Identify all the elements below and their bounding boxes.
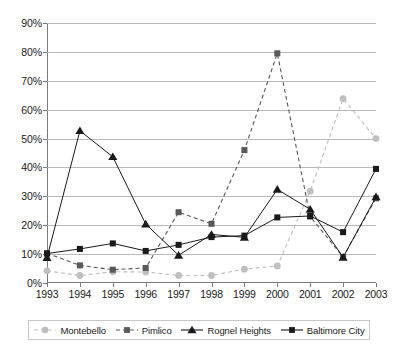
y-axis-tick-label: 30% (2, 190, 42, 202)
chart-container: 0%10%20%30%40%50%60%70%80%90% 1993199419… (0, 0, 394, 346)
legend-marker-icon (33, 325, 57, 335)
data-point (307, 213, 313, 219)
chart-legend: MontebelloPimlicoRognel HeightsBaltimore… (28, 320, 370, 340)
data-point (75, 126, 84, 134)
data-point (241, 147, 247, 153)
y-axis-tick-label: 50% (2, 133, 42, 145)
data-point (175, 272, 182, 279)
series-montebello (44, 95, 380, 279)
y-axis-tick-label: 90% (2, 17, 42, 29)
x-axis-tick (376, 283, 377, 287)
y-axis-tick-label: 80% (2, 46, 42, 58)
data-point (241, 233, 247, 239)
plot-area (47, 23, 376, 283)
data-point (273, 185, 282, 193)
legend-marker-icon (280, 325, 304, 335)
data-point (176, 209, 182, 215)
legend-item-baltimore-city[interactable]: Baltimore City (280, 325, 365, 336)
data-point (274, 263, 281, 270)
data-point (176, 242, 182, 248)
data-point (77, 262, 83, 268)
data-point (110, 240, 116, 246)
data-point (371, 193, 380, 201)
x-axis-tick (80, 283, 81, 287)
data-point (241, 266, 248, 273)
y-axis-tick-label: 60% (2, 104, 42, 116)
data-point (77, 246, 83, 252)
data-point (141, 220, 150, 228)
data-point (339, 253, 348, 261)
legend-label: Rognel Heights (206, 325, 271, 336)
legend-item-rognel-heights[interactable]: Rognel Heights (180, 325, 271, 336)
data-point (306, 205, 315, 213)
data-point (274, 214, 280, 220)
data-point (143, 265, 149, 271)
legend-item-pimlico[interactable]: Pimlico (115, 325, 172, 336)
data-point (274, 50, 280, 56)
data-point (307, 188, 314, 195)
y-axis-tick-label: 40% (2, 161, 42, 173)
y-axis-tick-label: 20% (2, 219, 42, 231)
x-axis-tick (212, 283, 213, 287)
data-point (340, 95, 347, 102)
data-point (44, 267, 51, 274)
data-point (208, 272, 215, 279)
legend-label: Montebello (59, 325, 105, 336)
x-axis-tick (310, 283, 311, 287)
y-axis-tick-label: 70% (2, 75, 42, 87)
data-point (143, 248, 149, 254)
x-axis-tick (277, 283, 278, 287)
y-axis-tick-label: 10% (2, 248, 42, 260)
legend-label: Baltimore City (306, 325, 365, 336)
x-axis-tick (343, 283, 344, 287)
legend-marker-icon (180, 325, 204, 335)
data-point (373, 166, 379, 172)
x-axis-tick (179, 283, 180, 287)
series-baltimore-city (44, 166, 379, 257)
data-point (340, 229, 346, 235)
legend-item-montebello[interactable]: Montebello (33, 325, 105, 336)
series-layer (47, 23, 376, 283)
x-axis-tick (113, 283, 114, 287)
legend-marker-icon (115, 325, 139, 335)
x-axis-tick (146, 283, 147, 287)
data-point (373, 135, 380, 142)
data-point (76, 272, 83, 279)
data-point (208, 234, 214, 240)
legend-label: Pimlico (141, 325, 172, 336)
data-point (208, 221, 214, 227)
data-point (108, 152, 117, 160)
x-axis-tick-label: 2003 (356, 288, 394, 300)
x-axis-tick (244, 283, 245, 287)
data-point (44, 251, 50, 257)
x-axis-tick (47, 283, 48, 287)
series-line (47, 99, 376, 276)
series-line (47, 169, 376, 254)
data-point (110, 267, 116, 273)
